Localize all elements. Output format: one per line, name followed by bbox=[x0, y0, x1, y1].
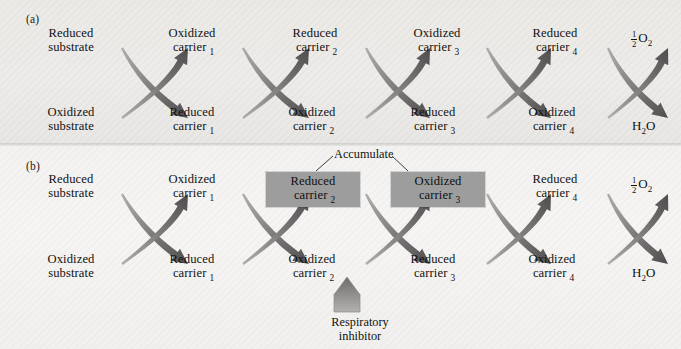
oxygen-subscript: 2 bbox=[648, 184, 653, 194]
node-subscript: 2 bbox=[329, 273, 334, 283]
node-oxidized-carrier-4-b: Oxidized carrier4 bbox=[505, 252, 599, 282]
node-reduced-carrier-1-b: Reduced carrier1 bbox=[145, 252, 239, 282]
node-line1: Oxidized bbox=[415, 174, 462, 188]
node-oxidized-carrier-2-b: Oxidized carrier2 bbox=[265, 252, 359, 282]
node-line1: Oxidized bbox=[48, 252, 95, 266]
node-subscript: 4 bbox=[569, 273, 574, 283]
node-line2: carrier bbox=[419, 188, 453, 202]
node-line2: carrier bbox=[296, 40, 330, 54]
oxygen-symbol: O bbox=[638, 176, 647, 191]
node-line2: carrier bbox=[173, 40, 207, 54]
annotation-respiratory-inhibitor: Respiratory inhibitor bbox=[302, 315, 418, 343]
fraction-numerator: 1 bbox=[631, 176, 637, 185]
fraction-numerator: 1 bbox=[631, 30, 637, 39]
node-subscript: 1 bbox=[209, 273, 214, 283]
node-line2: substrate bbox=[48, 119, 94, 133]
node-oxidized-carrier-1-b: Oxidized carrier1 bbox=[145, 172, 239, 202]
node-line1: Reduced bbox=[533, 172, 578, 186]
node-line2: substrate bbox=[48, 266, 94, 280]
node-line2: substrate bbox=[48, 186, 94, 200]
node-subscript: 4 bbox=[569, 126, 574, 136]
node-reduced-substrate-b: Reduced substrate bbox=[24, 172, 118, 201]
node-line1: Oxidized bbox=[414, 26, 461, 40]
node-line2: carrier bbox=[293, 119, 327, 133]
node-reduced-carrier-1-a: Reduced carrier1 bbox=[145, 105, 239, 135]
node-subscript: 3 bbox=[450, 273, 455, 283]
inhibitor-line1: Respiratory bbox=[331, 315, 388, 329]
node-line2: substrate bbox=[48, 40, 94, 54]
node-line1: Reduced bbox=[49, 172, 94, 186]
water-o: O bbox=[646, 265, 655, 280]
node-line1: Oxidized bbox=[289, 105, 336, 119]
node-line1: Reduced bbox=[293, 26, 338, 40]
node-line1: Oxidized bbox=[529, 252, 576, 266]
node-line2: carrier bbox=[414, 119, 448, 133]
node-line2: carrier bbox=[173, 186, 207, 200]
node-reduced-carrier-3-b: Reduced carrier3 bbox=[386, 252, 480, 282]
fraction-denominator: 2 bbox=[631, 185, 637, 195]
node-reduced-carrier-3-a: Reduced carrier3 bbox=[386, 105, 480, 135]
node-subscript: 1 bbox=[209, 126, 214, 136]
node-line2: carrier bbox=[418, 40, 452, 54]
node-line2: carrier bbox=[173, 119, 207, 133]
panel-a-label: (a) bbox=[26, 13, 39, 25]
node-line2: carrier bbox=[293, 266, 327, 280]
node-line1: Oxidized bbox=[289, 252, 336, 266]
node-reduced-carrier-4-a: Reduced carrier4 bbox=[508, 26, 602, 56]
node-subscript: 1 bbox=[209, 47, 214, 57]
node-line2: carrier bbox=[536, 186, 570, 200]
node-subscript: 3 bbox=[450, 126, 455, 136]
oxygen-symbol: O bbox=[638, 30, 647, 45]
node-line2: carrier bbox=[536, 40, 570, 54]
node-line1: Oxidized bbox=[48, 105, 95, 119]
water-o: O bbox=[646, 118, 655, 133]
water-h: H bbox=[632, 118, 641, 133]
node-oxidized-carrier-3-a: Oxidized carrier3 bbox=[390, 26, 484, 56]
node-subscript: 3 bbox=[455, 195, 460, 205]
one-half-fraction: 1 2 bbox=[631, 30, 637, 49]
node-line1: Oxidized bbox=[529, 105, 576, 119]
node-subscript: 4 bbox=[572, 47, 577, 57]
node-reduced-carrier-4-b: Reduced carrier4 bbox=[508, 172, 602, 202]
node-line1: Oxidized bbox=[169, 172, 216, 186]
node-subscript: 2 bbox=[329, 126, 334, 136]
node-reduced-carrier-2-b-highlighted: Reduced carrier2 bbox=[266, 172, 360, 207]
oxygen-subscript: 2 bbox=[648, 38, 653, 48]
figure-canvas: (a) Reduced substrate Oxidized carrier1 … bbox=[0, 0, 681, 349]
node-subscript: 3 bbox=[454, 47, 459, 57]
node-subscript: 2 bbox=[330, 195, 335, 205]
node-line1: Reduced bbox=[170, 105, 215, 119]
node-line1: Oxidized bbox=[169, 26, 216, 40]
node-line1: Reduced bbox=[49, 26, 94, 40]
one-half-fraction: 1 2 bbox=[631, 176, 637, 195]
terminal-oxygen-a: 1 2 O2 bbox=[631, 30, 652, 49]
terminal-water-b: H2O bbox=[632, 265, 655, 283]
terminal-water-a: H2O bbox=[632, 118, 655, 136]
node-line2: carrier bbox=[533, 119, 567, 133]
node-line1: Reduced bbox=[291, 174, 336, 188]
fraction-denominator: 2 bbox=[631, 39, 637, 49]
node-oxidized-carrier-3-b-highlighted: Oxidized carrier3 bbox=[391, 172, 485, 207]
node-line1: Reduced bbox=[411, 252, 456, 266]
node-oxidized-substrate-a: Oxidized substrate bbox=[24, 105, 118, 134]
node-oxidized-carrier-4-a: Oxidized carrier4 bbox=[505, 105, 599, 135]
node-oxidized-carrier-2-a: Oxidized carrier2 bbox=[265, 105, 359, 135]
panel-b-label: (b) bbox=[26, 160, 40, 172]
annotation-accumulate: Accumulate bbox=[334, 147, 393, 162]
node-subscript: 4 bbox=[572, 193, 577, 203]
node-line1: Reduced bbox=[533, 26, 578, 40]
water-h: H bbox=[632, 265, 641, 280]
node-subscript: 2 bbox=[332, 47, 337, 57]
node-oxidized-substrate-b: Oxidized substrate bbox=[24, 252, 118, 281]
node-line1: Reduced bbox=[170, 252, 215, 266]
node-oxidized-carrier-1-a: Oxidized carrier1 bbox=[145, 26, 239, 56]
node-reduced-carrier-2-a: Reduced carrier2 bbox=[268, 26, 362, 56]
terminal-oxygen-b: 1 2 O2 bbox=[631, 176, 652, 195]
node-line1: Reduced bbox=[411, 105, 456, 119]
node-line2: carrier bbox=[294, 188, 328, 202]
node-reduced-substrate-a: Reduced substrate bbox=[24, 26, 118, 55]
inhibitor-line2: inhibitor bbox=[339, 329, 381, 343]
node-line2: carrier bbox=[173, 266, 207, 280]
node-line2: carrier bbox=[533, 266, 567, 280]
node-subscript: 1 bbox=[209, 193, 214, 203]
